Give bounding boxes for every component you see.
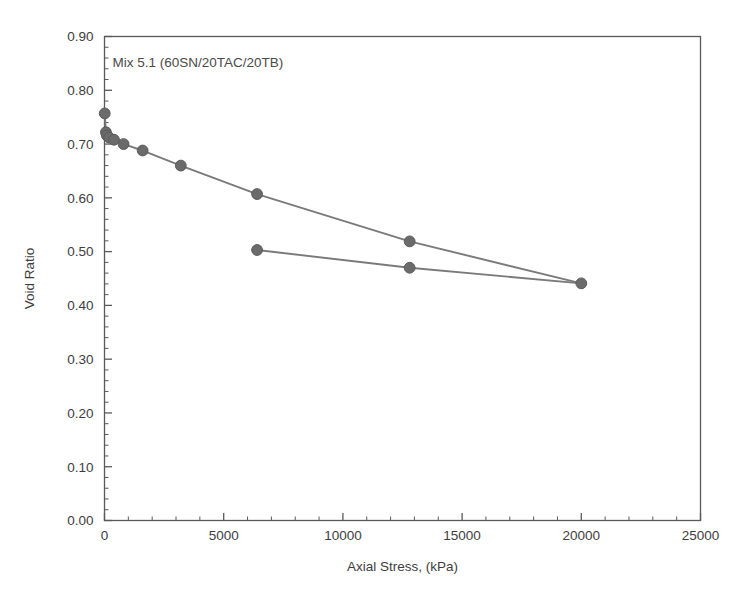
y-tick-label: 0.50 (67, 244, 93, 259)
data-point-marker (404, 262, 415, 273)
y-tick-label: 0.00 (67, 513, 93, 528)
data-point-marker (404, 236, 415, 247)
y-tick-label: 0.40 (67, 298, 93, 313)
data-point-marker (252, 189, 263, 200)
y-tick-label: 0.60 (67, 191, 93, 206)
x-tick-label: 15000 (443, 528, 481, 543)
chart-figure: 05000100001500020000250000.000.100.200.3… (0, 0, 749, 609)
void-ratio-vs-axial-stress-chart: 05000100001500020000250000.000.100.200.3… (0, 0, 749, 609)
x-tick-label: 20000 (563, 528, 601, 543)
y-tick-label: 0.10 (67, 460, 93, 475)
data-point-marker (137, 145, 148, 156)
data-point-marker (118, 139, 129, 150)
x-tick-label: 5000 (209, 528, 239, 543)
y-tick-label: 0.80 (67, 83, 93, 98)
x-tick-label: 0 (101, 528, 109, 543)
plot-annotation: Mix 5.1 (60SN/20TAC/20TB) (113, 55, 284, 70)
series-line-2 (257, 250, 581, 283)
data-point-marker (252, 245, 263, 256)
y-tick-label: 0.90 (67, 29, 93, 44)
plot-frame (105, 37, 701, 521)
y-tick-label: 0.20 (67, 406, 93, 421)
data-point-marker (99, 108, 110, 119)
x-tick-label: 10000 (324, 528, 362, 543)
y-tick-label: 0.30 (67, 352, 93, 367)
x-axis-title: Axial Stress, (kPa) (347, 559, 458, 574)
y-tick-label: 0.70 (67, 137, 93, 152)
data-point-marker (576, 278, 587, 289)
y-axis-title: Void Ratio (22, 248, 37, 310)
x-tick-label: 25000 (682, 528, 720, 543)
data-point-marker (175, 160, 186, 171)
series-line-1 (105, 113, 582, 283)
